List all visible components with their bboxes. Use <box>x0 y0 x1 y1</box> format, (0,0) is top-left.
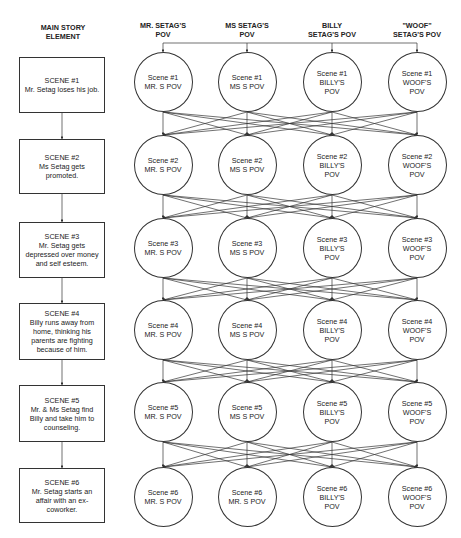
pov-scene-label: Scene #5 <box>148 403 178 412</box>
pov-scene-node-mr: Scene #5MR. S POV <box>134 382 193 442</box>
pov-scene-label: Scene #2 <box>148 156 178 165</box>
main-story-box: SCENE #6Mr. Setag starts an affair with … <box>19 468 105 523</box>
pov-scene-node-mr: Scene #4MR. S POV <box>134 300 193 360</box>
pov-scene-node-ms: Scene #2MS S POV <box>218 135 277 195</box>
pov-scene-label: Scene #5 <box>232 403 262 412</box>
pov-scene-node-woof: Scene #5WOOF'S POV <box>388 382 447 442</box>
pov-scene-node-billy: Scene #1BILLY'S POV <box>303 52 362 112</box>
pov-scene-label: Scene #1 <box>402 69 432 78</box>
pov-scene-label: Scene #1 <box>317 69 347 78</box>
pov-character-label: MR. S POV <box>144 412 181 421</box>
main-story-scene-title: SCENE #1 <box>45 76 80 85</box>
main-story-scene-title: SCENE #5 <box>45 396 80 405</box>
main-story-scene-title: SCENE #2 <box>45 153 80 162</box>
pov-scene-label: Scene #2 <box>232 156 262 165</box>
pov-character-label: WOOF'S POV <box>403 161 432 179</box>
pov-scene-node-billy: Scene #2BILLY'S POV <box>303 135 362 195</box>
pov-character-label: MS S POV <box>230 165 265 174</box>
main-story-box: SCENE #2Ms Setag gets promoted. <box>19 139 105 194</box>
pov-scene-label: Scene #4 <box>148 321 178 330</box>
pov-scene-node-billy: Scene #3BILLY'S POV <box>303 218 362 278</box>
pov-character-label: MS S POV <box>230 82 265 91</box>
pov-character-label: BILLY'S POV <box>319 493 344 511</box>
main-story-scene-desc: Ms Setag gets promoted. <box>39 162 85 180</box>
pov-character-label: WOOF'S POV <box>403 244 432 262</box>
pov-scene-label: Scene #3 <box>232 239 262 248</box>
pov-scene-label: Scene #5 <box>402 399 432 408</box>
pov-scene-label: Scene #4 <box>317 317 347 326</box>
main-story-scene-desc: Billy runs away from home, thinking his … <box>30 318 94 354</box>
pov-character-label: BILLY'S POV <box>319 408 344 426</box>
pov-scene-node-woof: Scene #2WOOF'S POV <box>388 135 447 195</box>
main-story-box: SCENE #1Mr. Setag loses his job. <box>19 57 105 113</box>
pov-character-label: BILLY'S POV <box>319 161 344 179</box>
main-story-scene-desc: Mr. Setag loses his job. <box>25 85 99 94</box>
column-header-billy-setag: BILLY SETAG'S POV <box>292 21 372 39</box>
pov-character-label: WOOF'S POV <box>403 326 432 344</box>
pov-character-label: MR. S POV <box>144 497 181 506</box>
pov-scene-label: Scene #6 <box>232 488 262 497</box>
pov-character-label: BILLY'S POV <box>319 326 344 344</box>
pov-scene-label: Scene #4 <box>232 321 262 330</box>
pov-character-label: MR. S POV <box>144 248 181 257</box>
main-story-scene-title: SCENE #3 <box>45 232 80 241</box>
pov-character-label: BILLY'S POV <box>319 244 344 262</box>
pov-scene-label: Scene #1 <box>148 73 178 82</box>
pov-scene-label: Scene #2 <box>402 152 432 161</box>
pov-scene-node-woof: Scene #3WOOF'S POV <box>388 218 447 278</box>
pov-scene-label: Scene #6 <box>148 488 178 497</box>
pov-scene-node-mr: Scene #2MR. S POV <box>134 135 193 195</box>
pov-scene-node-mr: Scene #1MR. S POV <box>134 52 193 112</box>
main-story-scene-desc: Mr. Setag starts an affair with an ex- c… <box>32 487 92 514</box>
pov-character-label: WOOF'S POV <box>403 408 432 426</box>
pov-scene-label: Scene #2 <box>317 152 347 161</box>
pov-scene-label: Scene #6 <box>402 484 432 493</box>
main-story-box: SCENE #4Billy runs away from home, think… <box>19 303 105 360</box>
main-story-scene-title: SCENE #6 <box>45 478 80 487</box>
pov-scene-node-ms: Scene #4MS S POV <box>218 300 277 360</box>
column-header-mr-setag: MR. SETAG'S POV <box>123 21 203 39</box>
main-story-scene-desc: Mr. Setag gets depressed over money and … <box>25 241 98 268</box>
pov-scene-label: Scene #3 <box>317 235 347 244</box>
pov-character-label: MR. S POV <box>228 497 265 506</box>
pov-scene-node-ms: Scene #1MS S POV <box>218 52 277 112</box>
pov-scene-node-billy: Scene #4BILLY'S POV <box>303 300 362 360</box>
pov-character-label: MR. S POV <box>144 165 181 174</box>
pov-scene-label: Scene #4 <box>402 317 432 326</box>
main-story-box: SCENE #3Mr. Setag gets depressed over mo… <box>19 222 105 278</box>
pov-character-label: MS S POV <box>230 248 265 257</box>
pov-character-label: WOOF'S POV <box>403 78 432 96</box>
pov-scene-node-woof: Scene #4WOOF'S POV <box>388 300 447 360</box>
pov-scene-label: Scene #6 <box>317 484 347 493</box>
pov-character-label: MR. S POV <box>144 330 181 339</box>
pov-character-label: MR. S POV <box>144 82 181 91</box>
pov-scene-node-mr: Scene #3MR. S POV <box>134 218 193 278</box>
pov-scene-label: Scene #3 <box>402 235 432 244</box>
pov-scene-node-ms: Scene #3MS S POV <box>218 218 277 278</box>
pov-scene-node-billy: Scene #6BILLY'S POV <box>303 467 362 527</box>
pov-scene-label: Scene #3 <box>148 239 178 248</box>
pov-scene-node-billy: Scene #5BILLY'S POV <box>303 382 362 442</box>
pov-scene-node-woof: Scene #1WOOF'S POV <box>388 52 447 112</box>
pov-character-label: MS S POV <box>230 330 265 339</box>
column-header-woof-setag: "WOOF" SETAG'S POV <box>377 21 457 39</box>
pov-scene-label: Scene #1 <box>232 73 262 82</box>
pov-character-label: MS S POV <box>230 412 265 421</box>
pov-scene-node-ms: Scene #5MS S POV <box>218 382 277 442</box>
pov-character-label: BILLY'S POV <box>319 78 344 96</box>
column-header-ms-setag: MS SETAG'S POV <box>207 21 287 39</box>
main-story-scene-desc: Mr. & Ms Setag find Billy and take him t… <box>30 405 94 432</box>
pov-scene-node-ms: Scene #6MR. S POV <box>218 467 277 527</box>
main-story-box: SCENE #5Mr. & Ms Setag find Billy and ta… <box>19 385 105 442</box>
pov-scene-node-mr: Scene #6MR. S POV <box>134 467 193 527</box>
pov-scene-label: Scene #5 <box>317 399 347 408</box>
main-story-scene-title: SCENE #4 <box>45 309 80 318</box>
main-story-header: MAIN STORY ELEMENT <box>22 23 104 41</box>
pov-scene-node-woof: Scene #6WOOF'S POV <box>388 467 447 527</box>
pov-character-label: WOOF'S POV <box>403 493 432 511</box>
